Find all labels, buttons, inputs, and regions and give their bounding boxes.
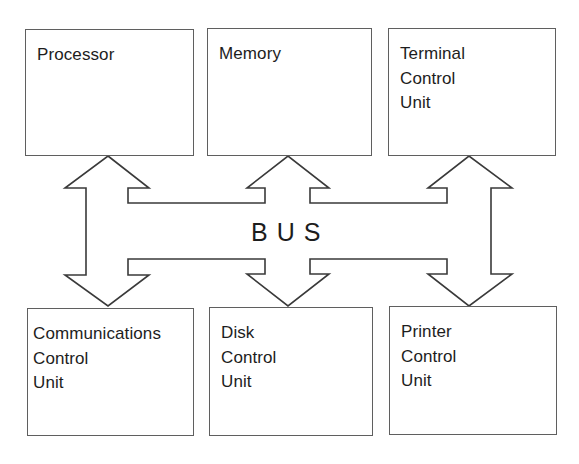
disk-control-unit-box: Disk Control Unit	[209, 307, 373, 436]
box-label-line: Unit	[401, 369, 556, 394]
bus-label: BUS	[251, 218, 329, 246]
box-label-line: Disk	[221, 321, 372, 346]
box-label-line: Control	[401, 345, 556, 370]
box-label: Memory	[219, 42, 371, 67]
printer-control-unit-box: Printer Control Unit	[389, 306, 557, 435]
box-label-line: Control	[221, 346, 372, 371]
communications-control-unit-box: Communications Control Unit	[27, 308, 194, 436]
box-label-line: Unit	[400, 91, 555, 116]
cropped-caption-fragment	[250, 0, 579, 4]
box-label-line: Printer	[401, 320, 556, 345]
memory-box: Memory	[207, 28, 372, 156]
box-label-line: Control	[400, 67, 555, 92]
box-label: Processor	[37, 43, 193, 68]
box-label-line: Control	[33, 347, 193, 372]
box-label-line: Communications	[33, 322, 193, 347]
terminal-control-unit-box: Terminal Control Unit	[388, 28, 556, 156]
processor-box: Processor	[25, 29, 194, 156]
box-label-line: Unit	[221, 370, 372, 395]
box-label-line: Unit	[33, 371, 193, 396]
box-label-line: Terminal	[400, 42, 555, 67]
